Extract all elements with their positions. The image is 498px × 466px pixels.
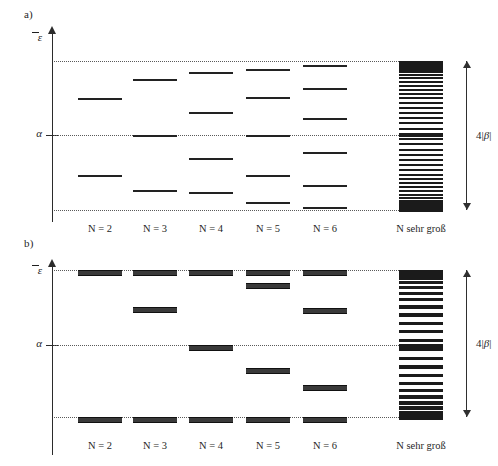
energy-level [303,308,347,314]
band-width-arrow-up-a [463,61,471,68]
band-level [399,298,443,301]
band-level [399,143,443,145]
band-level [399,197,443,199]
band-level [399,71,443,73]
band-level [399,128,443,130]
band-level [399,305,443,308]
band-level [399,330,443,333]
band-width-label-a: 4|β| [474,128,493,142]
energy-level [303,417,347,423]
energy-level [246,202,290,204]
energy-level [189,270,233,276]
alpha-label-a: α [16,127,42,139]
energy-level [78,270,122,276]
band-alpha-level [399,134,443,137]
band-level [399,182,443,184]
band-level [399,348,443,351]
band-level [399,112,443,114]
band-level [399,149,443,151]
band-level [399,374,443,377]
band-level [399,138,443,140]
band-width-measure-line-b [466,270,467,417]
band-level [399,276,443,279]
band-level [399,107,443,109]
band-level [399,365,443,368]
band-width-arrow-down-b [463,410,471,417]
band-level [399,164,443,166]
energy-level [303,118,347,120]
energy-axis-label-a: ε [16,30,42,43]
band-width-label-b: 4|β| [474,336,493,350]
energy-axis-arrowhead-b [48,259,56,267]
band-width-label-prefix-a: 4| [476,129,484,141]
band-level [399,401,443,404]
energy-level [78,417,122,423]
energy-level [246,135,290,137]
band-width-arrow-down-a [463,203,471,210]
energy-axis-arrowhead-a [48,26,56,34]
band-alpha-level [399,344,443,348]
overbar-b [32,265,39,266]
band-level [399,89,443,91]
energy-level [303,385,347,391]
band-level [399,194,443,196]
alpha-label-b: α [16,337,42,349]
energy-level [133,417,177,423]
band-level [399,102,443,104]
column-label-b-band: N sehr groß [396,440,446,451]
band-width-measure-line-a [466,61,467,210]
band-width-label-suffix-b: | [489,337,491,349]
band-level [399,81,443,83]
huckel-energy-level-figure: a)εαN = 2N = 3N = 4N = 5N = 6N sehr groß… [0,0,498,466]
energy-level [303,207,347,209]
energy-level [246,417,290,423]
energy-level [78,175,122,177]
lower-reference-line-a [54,210,443,211]
energy-level [246,69,290,71]
column-label-b-5: N = 5 [256,440,280,451]
panel-b: b)εαN = 2N = 3N = 4N = 5N = 6N sehr groß… [0,233,498,466]
overbar-a [32,32,39,33]
energy-level [303,88,347,90]
energy-level [189,72,233,74]
panel-a: a)εαN = 2N = 3N = 4N = 5N = 6N sehr groß… [0,0,498,233]
energy-level [303,185,347,187]
energy-axis-b [52,267,53,455]
energy-level [189,345,233,351]
energy-level [246,368,290,374]
energy-level [246,175,290,177]
band-level [399,169,443,171]
band-edge-cap [399,205,443,211]
band-level [399,154,443,156]
energy-level [246,270,290,276]
band-level [399,117,443,119]
energy-level [303,65,347,67]
band-edge-cap [399,412,443,418]
panel-caption-a: a) [24,8,33,20]
energy-level [133,270,177,276]
band-width-label-prefix-b: 4| [476,337,484,349]
energy-level [246,283,290,289]
band-level [399,286,443,289]
band-width-arrow-up-b [463,270,471,277]
energy-axis-a [52,34,53,222]
band-level [399,322,443,325]
band-width-label-suffix-a: | [489,129,491,141]
band-level [399,190,443,192]
column-label-b-3: N = 3 [143,440,167,451]
upper-reference-line-a [54,61,443,62]
column-label-b-4: N = 4 [199,440,223,451]
energy-level [189,112,233,114]
band-edge-cap [399,270,443,276]
energy-level [303,152,347,154]
panel-caption-b: b) [24,237,34,249]
energy-level [133,307,177,313]
band-level [399,313,443,316]
band-level [399,382,443,385]
band-level [399,93,443,95]
energy-axis-label-b: ε [16,263,42,276]
alpha-reference-line-b [54,345,443,346]
energy-level [133,135,177,137]
column-label-b-2: N = 2 [88,440,112,451]
band-level [399,97,443,99]
